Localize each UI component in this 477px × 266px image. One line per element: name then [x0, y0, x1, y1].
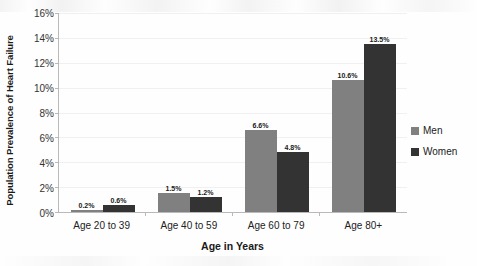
bar-women[interactable]: 4.8%	[277, 152, 309, 212]
bar-value-label: 6.6%	[253, 122, 269, 129]
y-axis-title: Population Prevalence of Heart Failure	[2, 13, 18, 228]
y-axis-tick-labels: 0%2%4%6%8%10%12%14%16%	[20, 13, 54, 213]
bar-value-label: 4.8%	[285, 144, 301, 151]
y-tick-label: 6%	[20, 133, 54, 144]
x-axis-title: Age in Years	[58, 240, 407, 252]
bar-pair: 1.5%1.2%	[158, 13, 222, 212]
legend-swatch-icon	[411, 148, 419, 156]
scan-artifact-top	[0, 0, 477, 12]
bar-group: 0.2%0.6%	[59, 13, 146, 212]
bar-value-label: 0.2%	[79, 202, 95, 209]
x-tick-mark	[319, 212, 320, 216]
bar-men[interactable]: 0.2%	[71, 210, 103, 212]
bar-groups: 0.2%0.6%1.5%1.2%6.6%4.8%10.6%13.5%	[59, 13, 407, 212]
x-tick-label: Age 60 to 79	[233, 220, 320, 231]
legend-swatch-icon	[411, 127, 419, 135]
x-axis-tick-labels: Age 20 to 39Age 40 to 59Age 60 to 79Age …	[58, 220, 407, 231]
bar-value-label: 10.6%	[338, 72, 358, 79]
x-tick-label: Age 80+	[320, 220, 407, 231]
legend-item-men[interactable]: Men	[411, 124, 477, 137]
bar-pair: 0.2%0.6%	[71, 13, 135, 212]
bar-value-label: 1.2%	[198, 189, 214, 196]
legend-label: Men	[423, 125, 442, 136]
bar-men[interactable]: 10.6%	[332, 80, 364, 212]
x-tick-mark	[232, 212, 233, 216]
bar-pair: 10.6%13.5%	[332, 13, 396, 212]
bar-group: 10.6%13.5%	[320, 13, 407, 212]
chart-figure: Population Prevalence of Heart Failure 0…	[0, 0, 477, 266]
y-tick-label: 2%	[20, 183, 54, 194]
y-tick-mark	[55, 212, 59, 213]
bar-men[interactable]: 1.5%	[158, 193, 190, 212]
bar-women[interactable]: 0.6%	[103, 205, 135, 212]
scan-artifact-bottom	[0, 256, 477, 266]
x-tick-label: Age 40 to 59	[145, 220, 232, 231]
legend-label: Women	[423, 146, 457, 157]
y-tick-label: 12%	[20, 58, 54, 69]
chart-legend: MenWomen	[411, 124, 477, 166]
y-tick-label: 4%	[20, 158, 54, 169]
y-tick-label: 8%	[20, 108, 54, 119]
bar-group: 6.6%4.8%	[233, 13, 320, 212]
bar-value-label: 13.5%	[370, 36, 390, 43]
x-tick-mark	[145, 212, 146, 216]
y-tick-label: 10%	[20, 83, 54, 94]
x-tick-label: Age 20 to 39	[58, 220, 145, 231]
bar-value-label: 1.5%	[166, 185, 182, 192]
bar-value-label: 0.6%	[111, 197, 127, 204]
bar-women[interactable]: 1.2%	[190, 197, 222, 212]
plot-area: 0.2%0.6%1.5%1.2%6.6%4.8%10.6%13.5%	[58, 13, 407, 213]
y-tick-label: 14%	[20, 33, 54, 44]
bar-women[interactable]: 13.5%	[364, 44, 396, 212]
bar-group: 1.5%1.2%	[146, 13, 233, 212]
bar-men[interactable]: 6.6%	[245, 130, 277, 212]
y-tick-label: 0%	[20, 208, 54, 219]
bar-pair: 6.6%4.8%	[245, 13, 309, 212]
y-tick-label: 16%	[20, 8, 54, 19]
legend-item-women[interactable]: Women	[411, 145, 477, 158]
